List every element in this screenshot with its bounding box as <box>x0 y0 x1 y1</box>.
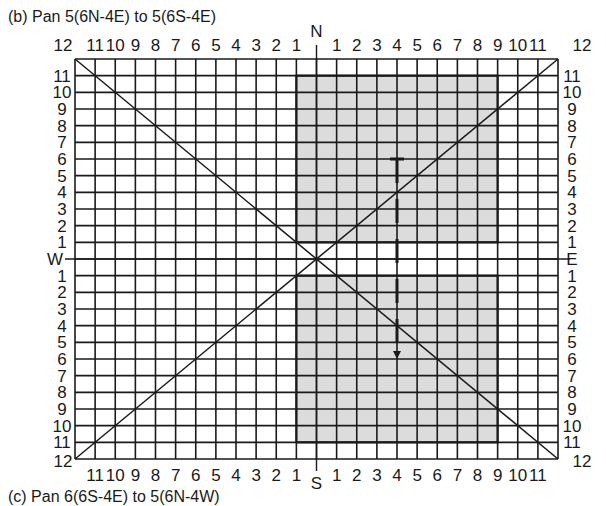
corner-label-se: 12 <box>573 452 592 471</box>
column-label-west: 10 <box>106 36 125 55</box>
column-label-east: 1 <box>332 36 341 55</box>
column-label-west: 7 <box>171 466 180 485</box>
column-label-west: 4 <box>231 36 240 55</box>
column-label-east: 9 <box>493 36 502 55</box>
compass-west-label: W <box>47 250 63 269</box>
column-label-west: 7 <box>171 36 180 55</box>
column-label-east: 10 <box>508 36 527 55</box>
column-label-east: 5 <box>412 466 421 485</box>
column-label-east: 3 <box>372 466 381 485</box>
column-label-west: 11 <box>86 466 104 485</box>
column-label-east: 7 <box>453 36 462 55</box>
column-label-east: 9 <box>493 466 502 485</box>
column-label-west: 2 <box>272 466 281 485</box>
column-label-east: 11 <box>529 36 547 55</box>
column-label-west: 4 <box>231 466 240 485</box>
row-label-south: 11 <box>53 433 71 452</box>
column-label-west: 1 <box>292 36 301 55</box>
column-label-west: 5 <box>211 466 220 485</box>
column-label-west: 10 <box>106 466 125 485</box>
column-label-west: 9 <box>131 466 140 485</box>
compass-north-label: N <box>310 22 322 41</box>
corner-label-nw: 12 <box>54 36 73 55</box>
compass-south-label: S <box>311 474 322 493</box>
column-label-east: 6 <box>433 36 442 55</box>
column-label-east: 8 <box>473 466 482 485</box>
column-label-east: 1 <box>332 466 341 485</box>
figure-caption-c: (c) Pan 6(6S-4E) to 5(6N-4W) <box>8 488 220 506</box>
column-label-west: 8 <box>151 36 160 55</box>
column-label-west: 5 <box>211 36 220 55</box>
row-label-south: 11 <box>563 433 581 452</box>
column-label-east: 2 <box>352 36 361 55</box>
column-label-east: 2 <box>352 466 361 485</box>
column-label-east: 7 <box>453 466 462 485</box>
column-label-east: 11 <box>529 466 547 485</box>
column-label-west: 3 <box>251 466 260 485</box>
column-label-west: 6 <box>191 36 200 55</box>
column-label-east: 4 <box>392 36 401 55</box>
column-label-west: 11 <box>86 36 104 55</box>
column-label-east: 10 <box>508 466 527 485</box>
column-label-west: 6 <box>191 466 200 485</box>
column-label-east: 5 <box>412 36 421 55</box>
column-label-east: 6 <box>433 466 442 485</box>
column-label-west: 2 <box>272 36 281 55</box>
column-label-west: 1 <box>292 466 301 485</box>
corner-label-sw: 12 <box>54 452 73 471</box>
column-label-east: 3 <box>372 36 381 55</box>
column-label-west: 9 <box>131 36 140 55</box>
column-label-east: 4 <box>392 466 401 485</box>
compass-east-label: E <box>566 250 577 269</box>
column-label-west: 8 <box>151 466 160 485</box>
column-label-west: 3 <box>251 36 260 55</box>
column-label-east: 8 <box>473 36 482 55</box>
corner-label-ne: 12 <box>573 36 592 55</box>
